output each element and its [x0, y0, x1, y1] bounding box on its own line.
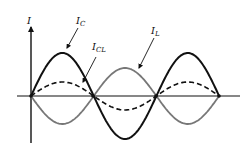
il-label: IL	[150, 25, 160, 38]
icl-label-sub: CL	[96, 46, 106, 54]
ic-pointer-arrow-icon	[67, 28, 78, 48]
y-axis-label: I	[26, 15, 32, 26]
ic-label: IC	[75, 15, 86, 28]
icl-pointer-arrow-icon	[83, 57, 96, 82]
il-pointer-arrow-icon	[139, 38, 154, 68]
ic-label-sub: C	[80, 20, 86, 28]
icl-label: ICL	[91, 41, 106, 54]
lc-current-waveform-diagram: I IC ICL IL	[0, 0, 246, 150]
il-label-sub: L	[154, 30, 160, 38]
